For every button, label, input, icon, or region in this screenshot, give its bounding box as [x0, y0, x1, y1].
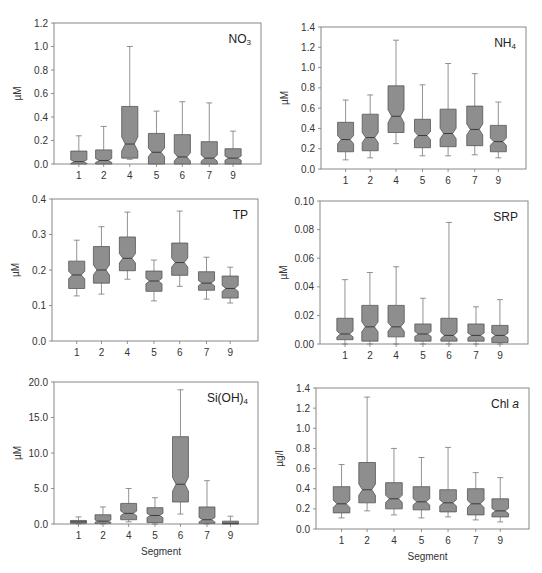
y-tick-label: 0.06 — [295, 253, 315, 264]
box-segment-2: 2 — [359, 397, 376, 546]
box-segment-7: 7 — [467, 473, 484, 546]
box-segment-7: 7 — [198, 257, 214, 358]
box-segment-2: 2 — [96, 126, 112, 181]
box-iqr — [93, 247, 109, 284]
box-segment-9: 9 — [490, 102, 506, 186]
x-tick-label: 6 — [180, 170, 186, 181]
x-tick-label: 6 — [446, 350, 452, 361]
x-tick-label: 9 — [230, 170, 236, 181]
box-iqr — [362, 114, 378, 151]
box-segment-6: 6 — [440, 447, 457, 546]
box-iqr — [148, 133, 164, 164]
box-iqr — [415, 324, 431, 341]
x-tick-label: 9 — [497, 535, 503, 546]
box-segment-5: 5 — [147, 498, 163, 541]
y-tick-label: 1.0 — [34, 41, 48, 52]
box-iqr — [119, 237, 135, 271]
y-tick-label: 0.8 — [296, 443, 310, 454]
x-tick-label: 1 — [342, 350, 348, 361]
x-tick-label: 6 — [177, 347, 183, 358]
box-iqr — [388, 86, 404, 133]
y-tick-label: 0.10 — [295, 196, 315, 207]
box-iqr — [121, 503, 137, 519]
panel-title: SRP — [493, 210, 518, 224]
panel-title: Chl a — [491, 397, 519, 411]
x-tick-label: 6 — [445, 175, 451, 186]
box-segment-5: 5 — [415, 298, 431, 361]
x-tick-label: 5 — [420, 175, 426, 186]
y-tick-label: 0.3 — [32, 229, 46, 240]
x-tick-label: 7 — [204, 347, 210, 358]
y-axis-label: µM — [279, 91, 290, 105]
box-segment-7: 7 — [199, 481, 215, 541]
x-tick-label: 9 — [227, 347, 233, 358]
x-tick-label: 9 — [497, 350, 503, 361]
panel-title-subscript: 4 — [512, 42, 517, 51]
box-iqr — [440, 109, 456, 147]
box-iqr — [492, 499, 509, 517]
y-tick-label: 0.02 — [295, 310, 315, 321]
box-iqr — [173, 437, 189, 502]
x-tick-label: 5 — [154, 170, 160, 181]
y-tick-label: 0.8 — [301, 82, 315, 93]
box-iqr — [338, 122, 354, 151]
panel-srp: 0.000.020.040.060.080.10µMSRP1245679 — [278, 196, 528, 362]
panel-title: NO3 — [229, 32, 252, 47]
box-iqr — [172, 243, 188, 275]
y-tick-label: 0.4 — [32, 194, 46, 205]
box-segment-7: 7 — [201, 103, 217, 181]
y-tick-label: 0.2 — [34, 135, 48, 146]
x-tick-label: 4 — [393, 350, 399, 361]
x-tick-label: 4 — [125, 347, 131, 358]
y-axis-label: µM — [278, 265, 289, 279]
box-segment-1: 1 — [71, 517, 87, 541]
y-tick-label: 0.0 — [34, 159, 48, 170]
panel-title-main: TP — [233, 208, 248, 222]
y-tick-label: 0.2 — [32, 265, 46, 276]
box-segment-1: 1 — [69, 240, 85, 358]
box-iqr — [468, 324, 484, 341]
x-tick-label: 9 — [496, 175, 502, 186]
box-iqr — [198, 272, 214, 290]
x-tick-label: 1 — [343, 175, 349, 186]
x-tick-label: 4 — [127, 170, 133, 181]
y-tick-label: 0.08 — [295, 224, 315, 235]
y-tick-label: 1.2 — [296, 403, 310, 414]
y-tick-label: 20.0 — [29, 377, 49, 388]
x-tick-label: 4 — [393, 175, 399, 186]
x-tick-label: 6 — [178, 530, 184, 541]
box-iqr — [362, 305, 378, 341]
box-segment-6: 6 — [174, 102, 190, 181]
panel-title-subscript: 4 — [244, 397, 249, 406]
box-segment-6: 6 — [441, 222, 457, 361]
box-segment-2: 2 — [362, 95, 378, 186]
box-iqr — [467, 489, 484, 515]
panel-title-main: NO — [229, 32, 247, 46]
x-tick-label: 2 — [367, 175, 373, 186]
panel-title: TP — [233, 208, 248, 222]
x-tick-label: 7 — [473, 350, 479, 361]
y-tick-label: 1.2 — [34, 18, 48, 29]
y-axis-label: µM — [12, 446, 23, 460]
box-segment-2: 2 — [93, 227, 109, 358]
x-tick-label: 7 — [206, 170, 212, 181]
box-segment-6: 6 — [173, 390, 189, 541]
y-tick-label: 0.6 — [296, 463, 310, 474]
box-iqr — [174, 135, 190, 164]
y-tick-label: 1.4 — [296, 383, 310, 394]
x-tick-label: 7 — [204, 530, 210, 541]
x-tick-label: 2 — [367, 350, 373, 361]
box-iqr — [386, 483, 403, 509]
panel-title: NH4 — [494, 36, 516, 51]
panel-tp: 0.00.10.20.30.4µMTP1245679 — [10, 194, 258, 359]
x-tick-label: 5 — [420, 350, 426, 361]
box-segment-5: 5 — [413, 457, 430, 546]
y-tick-label: 0.6 — [34, 88, 48, 99]
box-segment-4: 4 — [121, 489, 137, 542]
box-iqr — [201, 142, 217, 164]
box-segment-9: 9 — [225, 131, 241, 181]
y-tick-label: 1.2 — [301, 42, 315, 53]
panel-title-main: Si(OH) — [207, 391, 244, 405]
x-axis-label: Segment — [141, 546, 181, 557]
box-iqr — [96, 150, 112, 164]
